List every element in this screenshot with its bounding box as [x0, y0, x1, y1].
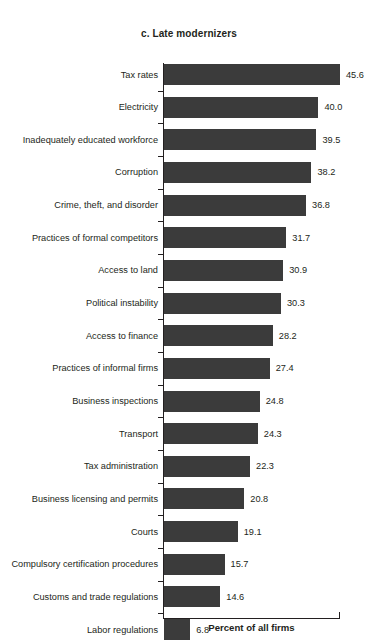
y-axis-tick [158, 254, 163, 255]
plot-area: Tax rates45.6Electricity40.0Inadequately… [0, 0, 378, 642]
bar-row: Compulsory certification procedures15.7 [0, 554, 378, 575]
bar-category-label: Courts [0, 526, 158, 537]
bar-value-label: 27.4 [276, 363, 294, 374]
bar-value-label: 19.1 [244, 526, 262, 537]
x-axis-title: Percent of all firms [163, 622, 340, 633]
bar-category-label: Electricity [0, 102, 158, 113]
bar [164, 423, 258, 444]
y-axis-tick [158, 483, 163, 484]
bar-value-label: 38.2 [317, 167, 335, 178]
bar-value-label: 39.5 [322, 134, 340, 145]
bar-value-label: 31.7 [292, 232, 310, 243]
bar-row: Business licensing and permits20.8 [0, 488, 378, 509]
bar-value-label: 40.0 [324, 102, 342, 113]
bar [164, 521, 238, 542]
bar-category-label: Crime, theft, and disorder [0, 200, 158, 211]
bar [164, 488, 244, 509]
y-axis-tick [158, 352, 163, 353]
bar-category-label: Transport [0, 428, 158, 439]
bar-row: Corruption38.2 [0, 162, 378, 183]
bar-value-label: 14.6 [226, 591, 244, 602]
y-axis-tick [158, 123, 163, 124]
bar-value-label: 36.8 [312, 200, 330, 211]
bar [164, 586, 220, 607]
y-axis-tick [158, 515, 163, 516]
y-axis-tick [158, 319, 163, 320]
bar-category-label: Practices of formal competitors [0, 232, 158, 243]
bar-row: Customs and trade regulations14.6 [0, 586, 378, 607]
bar-value-label: 30.9 [289, 265, 307, 276]
bar-value-label: 15.7 [231, 559, 249, 570]
bar [164, 97, 318, 118]
bar-value-label: 24.3 [264, 428, 282, 439]
bar-row: Inadequately educated workforce39.5 [0, 129, 378, 150]
bar [164, 293, 281, 314]
bar [164, 129, 316, 150]
bar-category-label: Political instability [0, 298, 158, 309]
bar-row: Practices of informal firms27.4 [0, 358, 378, 379]
y-axis-tick [158, 189, 163, 190]
bar-value-label: 22.3 [256, 461, 274, 472]
bar [164, 456, 250, 477]
bar [164, 554, 225, 575]
bar-category-label: Business inspections [0, 396, 158, 407]
y-axis-tick [158, 156, 163, 157]
x-axis-end-tick [339, 612, 340, 618]
bar [164, 391, 260, 412]
y-axis-tick [158, 91, 163, 92]
bar-row: Electricity40.0 [0, 97, 378, 118]
bar-row: Tax rates45.6 [0, 64, 378, 85]
bar-value-label: 24.8 [266, 396, 284, 407]
y-axis-tick [158, 417, 163, 418]
bar-value-label: 45.6 [346, 69, 364, 80]
bar-category-label: Tax administration [0, 461, 158, 472]
bar-category-label: Customs and trade regulations [0, 591, 158, 602]
bar-row: Access to land30.9 [0, 260, 378, 281]
bar-row: Political instability30.3 [0, 293, 378, 314]
bar [164, 358, 270, 379]
y-axis-tick [158, 385, 163, 386]
bar-row: Tax administration22.3 [0, 456, 378, 477]
bar-category-label: Compulsory certification procedures [0, 559, 158, 570]
bar-row: Business inspections24.8 [0, 391, 378, 412]
chart-figure: c. Late modernizers Tax rates45.6Electri… [0, 0, 378, 642]
bar [164, 325, 273, 346]
bar-row: Practices of formal competitors31.7 [0, 227, 378, 248]
bar-category-label: Labor regulations [0, 624, 158, 635]
bar-category-label: Corruption [0, 167, 158, 178]
bar [164, 227, 286, 248]
bar [164, 260, 283, 281]
bar-category-label: Practices of informal firms [0, 363, 158, 374]
y-axis-tick [158, 450, 163, 451]
bar-category-label: Access to finance [0, 330, 158, 341]
bar-value-label: 28.2 [279, 330, 297, 341]
bar-value-label: 20.8 [250, 493, 268, 504]
bar-row: Transport24.3 [0, 423, 378, 444]
bar [164, 64, 340, 85]
bar-category-label: Access to land [0, 265, 158, 276]
y-axis-tick [158, 613, 163, 614]
bar [164, 195, 306, 216]
bar-value-label: 30.3 [287, 298, 305, 309]
bar-category-label: Tax rates [0, 69, 158, 80]
bar-category-label: Inadequately educated workforce [0, 134, 158, 145]
bar-category-label: Business licensing and permits [0, 493, 158, 504]
y-axis-tick [158, 221, 163, 222]
bar-row: Access to finance28.2 [0, 325, 378, 346]
y-axis-tick [158, 581, 163, 582]
bar-row: Courts19.1 [0, 521, 378, 542]
bar-row: Crime, theft, and disorder36.8 [0, 195, 378, 216]
bar [164, 162, 311, 183]
y-axis-tick [158, 287, 163, 288]
y-axis-tick [158, 548, 163, 549]
